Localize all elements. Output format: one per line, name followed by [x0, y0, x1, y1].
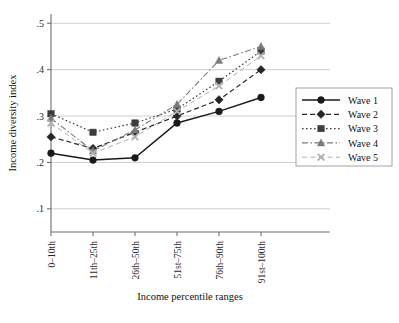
data-point-diamond — [47, 133, 55, 141]
y-tick-label: .5 — [37, 18, 45, 29]
legend: Wave 1Wave 2Wave 3Wave 4Wave 5 — [296, 88, 392, 166]
series-3 — [48, 48, 264, 136]
data-point-triangle — [131, 126, 138, 133]
data-point-circle — [174, 120, 181, 127]
series-1 — [48, 94, 265, 163]
series-line — [51, 70, 261, 149]
data-point-circle — [132, 154, 139, 161]
x-tick-label: 26th–50th — [131, 241, 141, 280]
x-tick-label: 11th–25th — [89, 241, 99, 279]
axes — [51, 14, 330, 232]
legend-label: Wave 2 — [348, 109, 378, 120]
x-tick-label: 91st–100th — [257, 241, 267, 283]
data-point-diamond — [257, 65, 265, 73]
series-line — [51, 56, 261, 153]
y-tick-label: .3 — [37, 111, 45, 122]
x-axis-tick-labels: 0–10th11th–25th26th–50th51st–75th76th–90… — [47, 241, 267, 283]
series-line — [51, 97, 261, 160]
y-axis-tick-labels: .1.2.3.4.5 — [37, 18, 45, 215]
x-tick-label: 76th–90th — [215, 241, 225, 280]
y-axis-title: Income diversity index — [7, 74, 18, 172]
data-point-square — [90, 129, 96, 135]
data-point-circle — [48, 150, 55, 157]
data-point-triangle — [257, 42, 264, 49]
x-tick-label: 51st–75th — [173, 241, 183, 279]
legend-label: Wave 4 — [348, 138, 378, 149]
chart-canvas: .1.2.3.4.5 0–10th11th–25th26th–50th51st–… — [0, 0, 399, 323]
legend-label: Wave 1 — [348, 95, 378, 106]
x-axis-title: Income percentile ranges — [137, 291, 243, 302]
legend-label: Wave 3 — [348, 123, 378, 134]
data-point-circle — [90, 157, 97, 164]
series-4 — [47, 42, 264, 153]
data-series-layer — [47, 42, 265, 163]
x-axis-ticks — [51, 232, 261, 236]
legend-label: Wave 5 — [348, 152, 378, 163]
data-point-diamond — [215, 96, 223, 104]
series-line — [51, 46, 261, 150]
data-point-circle — [318, 97, 325, 104]
income-diversity-chart: .1.2.3.4.5 0–10th11th–25th26th–50th51st–… — [0, 0, 399, 323]
x-tick-label: 0–10th — [47, 241, 57, 268]
data-point-circle — [216, 108, 223, 115]
data-point-circle — [258, 94, 265, 101]
y-tick-label: .1 — [37, 203, 45, 214]
series-line — [51, 51, 261, 132]
data-point-square — [318, 125, 324, 131]
y-tick-label: .4 — [37, 64, 45, 75]
y-tick-label: .2 — [37, 157, 45, 168]
data-point-square — [132, 120, 138, 126]
gridlines — [51, 23, 330, 209]
